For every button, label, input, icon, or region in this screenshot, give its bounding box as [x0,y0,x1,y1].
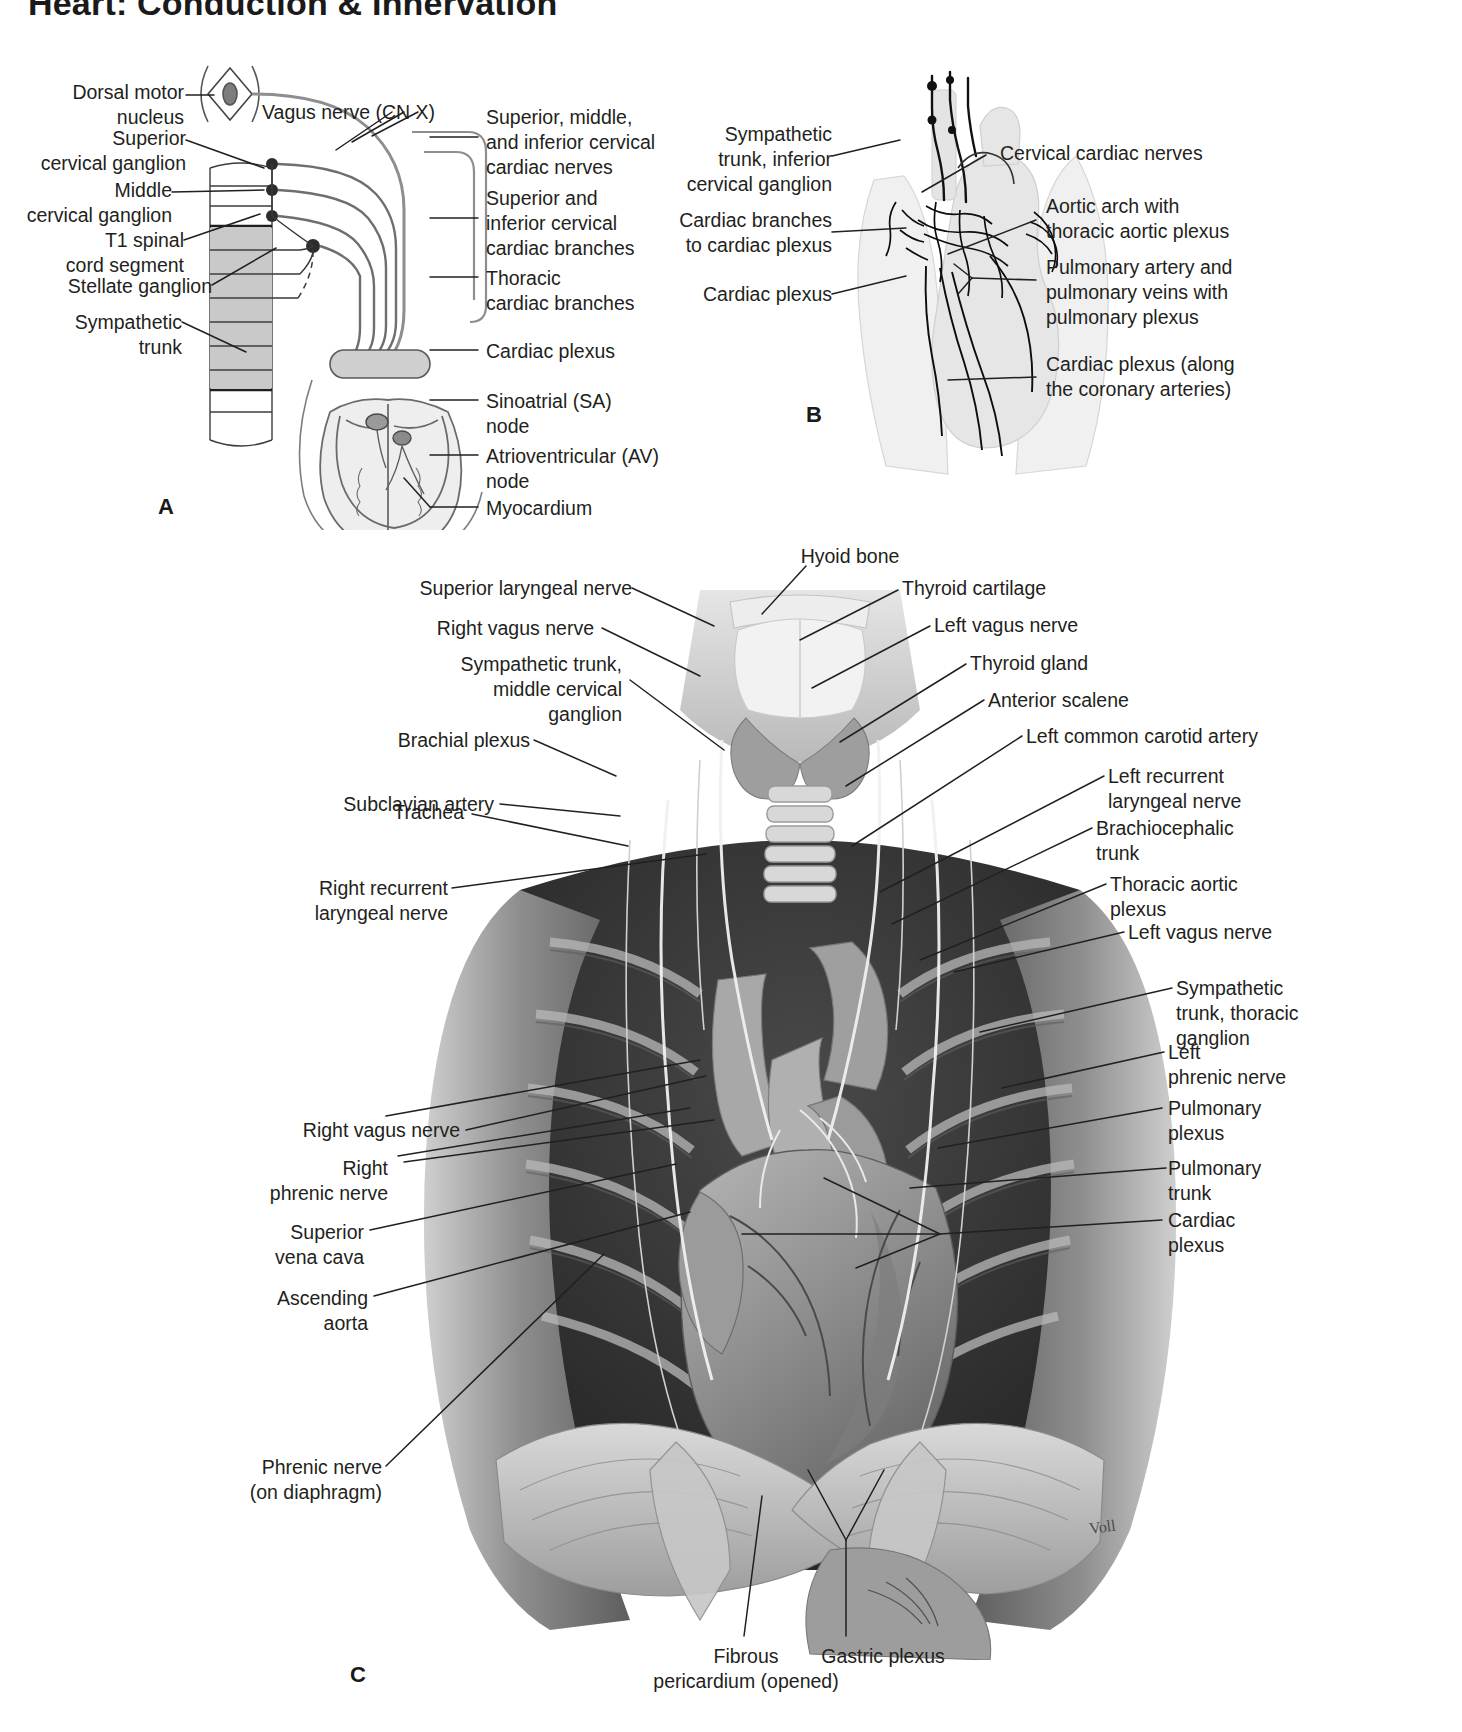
label-cervical-cardiac-nerves-b: Cervical cardiac nerves [1000,141,1280,166]
label-vagus-nerve: Vagus nerve (CN X) [262,100,482,125]
label-thyroid-cartilage: Thyroid cartilage [902,576,1142,601]
label-cardiac-branches-to-cardiac-plexus: Cardiac branches to cardiac plexus [612,208,832,258]
label-sympathetic-trunk-middle-cervical-ganglion: Sympathetic trunk, middle cervical gangl… [372,652,622,727]
label-left-recurrent-laryngeal-nerve: Left recurrent laryngeal nerve [1108,764,1308,814]
label-aortic-arch-with-thoracic-aortic-plexus: Aortic arch with thoracic aortic plexus [1046,194,1326,244]
label-hyoid-bone: Hyoid bone [760,544,940,569]
label-pulmonary-vessels-with-pulmonary-plexus: Pulmonary artery and pulmonary veins wit… [1046,255,1326,330]
label-thoracic-aortic-plexus: Thoracic aortic plexus [1110,872,1300,922]
label-left-phrenic-nerve: Left phrenic nerve [1168,1040,1344,1090]
label-right-phrenic-nerve: Right phrenic nerve [222,1156,388,1206]
label-sinoatrial-node: Sinoatrial (SA) node [486,389,706,439]
label-left-common-carotid-artery: Left common carotid artery [1026,724,1306,749]
label-gastric-plexus: Gastric plexus [768,1644,998,1669]
label-pulmonary-trunk: Pulmonary trunk [1168,1156,1328,1206]
label-superior-cervical-ganglion: Superior cervical ganglion [14,126,186,176]
label-cardiac-plexus-a: Cardiac plexus [486,339,706,364]
label-right-vagus-nerve: Right vagus nerve [372,616,594,641]
label-superior-laryngeal-nerve: Superior laryngeal nerve [372,576,632,601]
label-stellate-ganglion: Stellate ganglion [14,274,212,299]
label-atrioventricular-node: Atrioventricular (AV) node [486,444,716,494]
label-sympathetic-trunk-inferior-cervical-ganglion: Sympathetic trunk, inferior cervical gan… [612,122,832,197]
label-cardiac-plexus-coronary-arteries: Cardiac plexus (along the coronary arter… [1046,352,1336,402]
label-left-vagus-nerve-lower: Left vagus nerve [1128,920,1328,945]
label-myocardium: Myocardium [486,496,686,521]
page-title: Heart: Conduction & Innervation [28,0,557,23]
panel-letter-b: B [806,402,822,428]
label-pulmonary-plexus: Pulmonary plexus [1168,1096,1328,1146]
label-cardiac-plexus-b: Cardiac plexus [612,282,832,307]
label-brachiocephalic-trunk: Brachiocephalic trunk [1096,816,1286,866]
panel-letter-a: A [158,494,174,520]
panel-letter-c: C [350,1662,366,1688]
label-trachea: Trachea [292,800,464,825]
label-left-vagus-nerve: Left vagus nerve [934,613,1164,638]
label-cardiac-plexus-c: Cardiac plexus [1168,1208,1318,1258]
label-anterior-scalene: Anterior scalene [988,688,1218,713]
label-ascending-aorta: Ascending aorta [222,1286,368,1336]
label-right-vagus-nerve-lower: Right vagus nerve [222,1118,460,1143]
label-t1-spinal-cord-segment: T1 spinal cord segment [14,228,184,278]
label-phrenic-nerve-on-diaphragm: Phrenic nerve (on diaphragm) [196,1455,382,1505]
label-brachial-plexus: Brachial plexus [372,728,530,753]
label-thyroid-gland: Thyroid gland [970,651,1190,676]
figure-page: Heart: Conduction & Innervation [0,0,1462,1732]
label-middle-cervical-ganglion: Middle cervical ganglion [14,178,172,228]
label-right-recurrent-laryngeal-nerve: Right recurrent laryngeal nerve [272,876,448,926]
label-dorsal-motor-nucleus: Dorsal motor nucleus [0,80,184,130]
label-sympathetic-trunk: Sympathetic trunk [14,310,182,360]
label-superior-vena-cava: Superior vena cava [222,1220,364,1270]
